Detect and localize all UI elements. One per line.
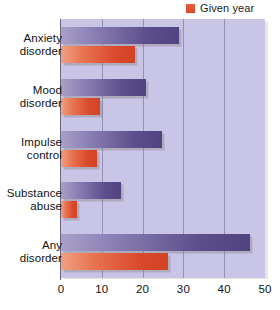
bar-substance-abuse-given-year <box>61 201 77 218</box>
bar-mood-disorder-lifetime <box>61 79 146 96</box>
x-tick-30: 30 <box>177 283 190 295</box>
category-label-line: Anxiety <box>0 32 62 45</box>
category-label-line: disorder <box>0 45 62 58</box>
category-label-line: disorder <box>0 97 62 110</box>
bar-chart: Given year AnxietydisorderMooddisorderIm… <box>0 0 280 310</box>
category-label-anxiety-disorder: Anxietydisorder <box>0 32 62 58</box>
bar-impulse-control-given-year <box>61 150 97 167</box>
category-label-line: disorder <box>0 252 62 265</box>
bar-impulse-control-lifetime <box>61 131 162 148</box>
plot-area <box>61 19 265 278</box>
x-tick-10: 10 <box>95 283 108 295</box>
bar-anxiety-disorder-lifetime <box>61 27 179 44</box>
bar-mood-disorder-given-year <box>61 98 100 115</box>
category-label-line: Substance <box>0 187 62 200</box>
bar-anxiety-disorder-given-year <box>61 46 135 63</box>
category-label-line: Mood <box>0 84 62 97</box>
x-tick-20: 20 <box>136 283 149 295</box>
category-label-substance-abuse: Substanceabuse <box>0 187 62 213</box>
category-label-line: abuse <box>0 200 62 213</box>
bar-any-disorder-lifetime <box>61 234 250 251</box>
x-tick-0: 0 <box>58 283 65 295</box>
category-label-any-disorder: Anydisorder <box>0 239 62 265</box>
category-label-mood-disorder: Mooddisorder <box>0 84 62 110</box>
chart-legend: Given year <box>186 1 254 15</box>
category-label-line: Impulse <box>0 136 62 149</box>
bar-substance-abuse-lifetime <box>61 182 121 199</box>
x-tick-50: 50 <box>258 283 271 295</box>
x-tick-40: 40 <box>218 283 231 295</box>
category-label-line: control <box>0 149 62 162</box>
category-label-line: Any <box>0 239 62 252</box>
category-label-impulse-control: Impulsecontrol <box>0 136 62 162</box>
legend-swatch-given-year <box>186 4 195 13</box>
bar-any-disorder-given-year <box>61 253 168 270</box>
legend-label-given-year: Given year <box>200 2 254 14</box>
